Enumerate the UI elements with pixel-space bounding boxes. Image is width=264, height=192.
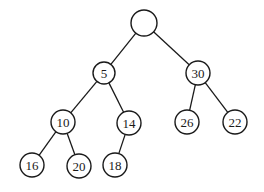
tree-node-n18: 18 — [103, 153, 127, 177]
tree-node-root — [131, 10, 157, 36]
edge-n14-n18 — [119, 134, 125, 153]
edge-n5-n14 — [109, 83, 124, 112]
edges — [39, 32, 228, 155]
tree-node-n16: 16 — [20, 153, 44, 177]
edge-n30-n26 — [190, 85, 196, 111]
edge-n5-n10 — [71, 81, 97, 112]
tree-node-n30: 30 — [186, 61, 210, 85]
node-label: 18 — [109, 158, 122, 173]
tree-node-n20: 20 — [67, 154, 91, 178]
tree-node-n14: 14 — [117, 111, 141, 135]
edge-n10-n16 — [39, 132, 56, 156]
node-label: 5 — [101, 66, 108, 81]
node-label: 22 — [229, 115, 242, 130]
node-label: 16 — [26, 158, 40, 173]
tree-node-n26: 26 — [175, 110, 199, 134]
edge-root-n30 — [154, 32, 190, 65]
node-label: 20 — [73, 159, 86, 174]
node-label: 10 — [57, 115, 70, 130]
edge-n10-n20 — [67, 133, 75, 154]
node-circle — [131, 10, 157, 36]
edge-n30-n22 — [205, 83, 228, 113]
edge-root-n5 — [111, 33, 136, 64]
tree-node-n22: 22 — [223, 110, 247, 134]
node-label: 30 — [192, 66, 205, 81]
tree-node-n10: 10 — [51, 110, 75, 134]
tree-diagram: 53010142622162018 — [0, 0, 264, 192]
tree-node-n5: 5 — [93, 62, 115, 84]
node-label: 26 — [181, 115, 195, 130]
node-label: 14 — [123, 116, 137, 131]
